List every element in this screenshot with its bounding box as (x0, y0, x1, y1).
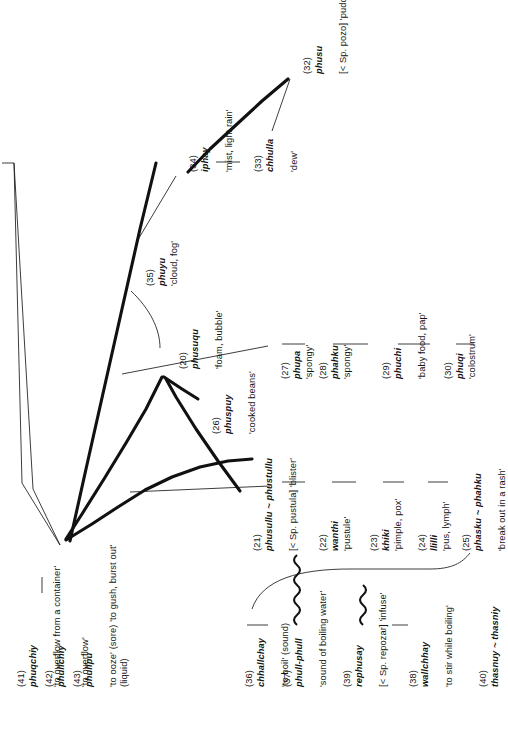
node-39-gloss: [< Sp. repozar] 'infuse' (378, 592, 388, 687)
node-39[interactable]: (39) rephusay [< Sp. repozar] 'infuse' (330, 567, 389, 687)
node-24-num: (24) (417, 534, 427, 551)
node-43[interactable]: (43) phullpu 'to ooze' (sore) 'to gush, … (60, 537, 131, 687)
node-39-num: (39) (342, 670, 352, 687)
node-23-headword: khiki (381, 529, 391, 551)
node-28[interactable]: (28) phahku 'spongy' (306, 259, 354, 379)
node-29-headword: phuchi (393, 348, 403, 379)
node-33-num: (33) (253, 155, 263, 172)
edge-35-20 (131, 291, 160, 348)
node-26-num: (26) (211, 417, 221, 434)
node-33-gloss: 'dew' (289, 151, 299, 172)
node-23[interactable]: (23) khiki 'pimple, pox' (357, 421, 405, 551)
node-30-gloss: 'colostrum' (467, 334, 477, 379)
node-26[interactable]: (26) phuspuy 'cooked beans' (199, 314, 258, 434)
edge-42-43 (14, 163, 60, 545)
node-22[interactable]: (22) wanthi 'pustule' (306, 431, 354, 551)
node-20-num: (20) (178, 352, 188, 369)
node-38-num: (38) (408, 670, 418, 687)
node-37-gloss: 'sound of boiling water' (318, 591, 328, 687)
node-42-num: (42) (44, 670, 54, 687)
node-39-headword: rephusay (354, 645, 364, 687)
node-25-num: (25) (461, 534, 471, 551)
node-43-num: (43) (72, 670, 82, 687)
edge-20-43-thick (66, 377, 162, 539)
edge-41-43 (2, 163, 60, 545)
node-22-gloss: 'pustule' (342, 517, 352, 551)
node-29[interactable]: (29) phuchi 'baby food, pap' (369, 254, 428, 379)
node-36-headword: chhallchay (256, 638, 266, 687)
node-33-headword: chhulla (265, 139, 275, 172)
node-30[interactable]: (30) phuqi 'colostrum' (431, 254, 479, 379)
node-43-gloss: 'to ooze' (sore) 'to gush, burst out' (l… (108, 544, 130, 687)
node-36-num: (36) (244, 670, 254, 687)
node-29-num: (29) (381, 362, 391, 379)
node-38-gloss: 'to stir while boiling' (444, 605, 454, 687)
node-25[interactable]: (25) phasku ~ phahku 'break out in a ras… (449, 406, 508, 551)
node-34-headword: iphay (200, 147, 210, 172)
node-24-headword: llilli (429, 535, 439, 551)
node-35[interactable]: (35) phuyu 'cloud, fog' (133, 156, 181, 286)
node-23-num: (23) (369, 534, 379, 551)
node-32-gloss: [< Sp. pozo] 'puddle' (338, 0, 348, 74)
node-38[interactable]: (38) wallchhay 'to stir while boiling' (396, 557, 455, 687)
node-32-headword: phusu (314, 46, 324, 74)
node-35-num: (35) (145, 269, 155, 286)
node-21-headword: phusullu ~ phustullu (264, 458, 274, 551)
node-40-num: (40) (478, 670, 488, 687)
node-38-headword: wallchhay (420, 642, 430, 687)
node-22-num: (22) (318, 534, 328, 551)
node-37-headword: phull-phull (294, 638, 304, 687)
node-40-headword: thasnuy ~ thasniy (490, 607, 500, 688)
node-35-headword: phuyu (157, 258, 167, 286)
node-28-num: (28) (318, 362, 328, 379)
node-35-gloss: 'cloud, fog' (169, 241, 179, 286)
node-27-headword: phupa (292, 351, 302, 379)
node-43-headword: phullpu (84, 653, 94, 687)
node-32-num: (32) (302, 57, 312, 74)
node-24[interactable]: (24) llilli 'pus, lymph' (405, 421, 453, 551)
node-34[interactable]: (34) iphay 'mist, light rain' (176, 42, 235, 172)
node-30-headword: phuqi (455, 353, 465, 379)
node-21-num: (21) (252, 534, 262, 551)
node-22-headword: wanthi (330, 521, 340, 551)
node-29-gloss: 'baby food, pap' (417, 312, 427, 379)
node-25-headword: phasku ~ phahku (473, 473, 483, 551)
node-34-gloss: 'mist, light rain' (224, 109, 234, 172)
node-28-gloss: 'spongy' (342, 345, 352, 379)
node-26-gloss: 'cooked beans' (247, 371, 257, 434)
node-23-gloss: 'pimple, pox' (393, 499, 403, 551)
node-33[interactable]: (33) chhulla 'dew' (241, 62, 300, 172)
node-41-num: (41) (16, 670, 26, 687)
node-32[interactable]: (32) phusu [< Sp. pozo] 'puddle' (290, 0, 349, 74)
node-37[interactable]: (37) phull-phull 'sound of boiling water… (270, 537, 329, 687)
node-26-headword: phuspuy (223, 395, 233, 434)
node-34-num: (34) (188, 155, 198, 172)
node-25-gloss: 'break out in a rash' (497, 468, 507, 551)
node-37-num: (37) (282, 670, 292, 687)
node-30-num: (30) (443, 362, 453, 379)
edge-20-26-thick (164, 377, 198, 399)
node-27-num: (27) (280, 362, 290, 379)
node-28-headword: phahku (330, 345, 340, 379)
node-21-gloss: [< Sp. pustula] 'blister' (288, 458, 298, 551)
